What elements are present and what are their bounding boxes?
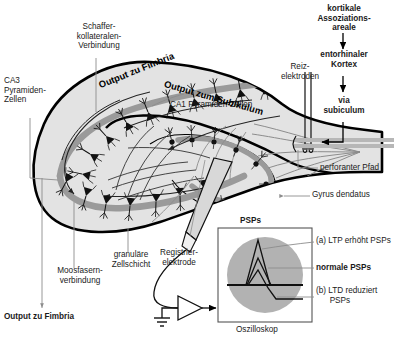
flow-step-via-subiculum: via subiculum: [300, 96, 388, 115]
label-oszilloskop: Oszilloskop: [236, 325, 278, 335]
oscilloscope: [218, 228, 314, 322]
amplifier: [154, 296, 216, 326]
label-trace-ltd: (b) LTD reduziert PSPs: [316, 286, 377, 305]
flow-step-kortikale-assoziationsareale: kortikale Assoziations- areale: [300, 4, 388, 33]
label-registrierelektrode: Registrier- elektrode: [146, 248, 212, 267]
label-trace-ltp: (a) LTP erhöht PSPs: [316, 236, 391, 246]
label-perforanter-pfad: perforanter Pfad: [320, 163, 379, 173]
label-ca3: CA3 Pyramiden- Zellen: [4, 76, 74, 105]
label-gyrus-dendatus: Gyrus dendatus: [312, 190, 370, 200]
flow-step-entorhinaler-kortex: entorhinaler Kortex: [300, 50, 388, 69]
label-schaffer: Schaffer- kollateralen- Verbindung: [44, 22, 154, 51]
label-psps: PSPs: [240, 216, 261, 226]
ground-symbol: [154, 308, 178, 326]
label-moosfasern: Moosfasern- verbindung: [42, 266, 118, 285]
label-trace-normal: normale PSPs: [316, 263, 371, 273]
label-output-fimbria-bottom: Output zu Fimbria: [4, 312, 74, 322]
figure-hippocampus-ltp: Schaffer- kollateralen- Verbindung CA3 P…: [0, 0, 394, 341]
